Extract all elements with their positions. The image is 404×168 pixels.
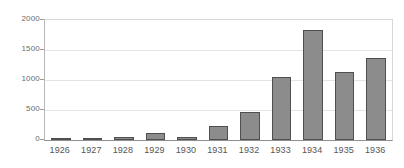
bar-1927 xyxy=(83,138,103,140)
bar-1936 xyxy=(366,58,386,141)
x-axis-tick-label-1926: 1926 xyxy=(44,145,76,156)
y-axis-tick-label-1000: 1000 xyxy=(6,75,40,83)
x-axis-tick-label-1936: 1936 xyxy=(359,145,391,156)
bar-1932 xyxy=(240,112,260,140)
y-axis-tick-label-2000: 2000 xyxy=(6,15,40,23)
gridline-1500 xyxy=(45,50,392,51)
bar-1928 xyxy=(114,137,134,140)
x-axis-tick-label-1935: 1935 xyxy=(328,145,360,156)
x-axis-tick-label-1927: 1927 xyxy=(76,145,108,156)
x-axis-tick-label-1929: 1929 xyxy=(139,145,171,156)
x-axis-tick-label-1933: 1933 xyxy=(265,145,297,156)
bar-1926 xyxy=(51,138,71,140)
bar-1930 xyxy=(177,137,197,140)
bar-1935 xyxy=(335,72,355,140)
y-axis-tick-label-0: 0 xyxy=(6,135,40,143)
x-axis-tick-label-1932: 1932 xyxy=(233,145,265,156)
y-axis-tick-label-1500: 1500 xyxy=(6,45,40,53)
bar-1929 xyxy=(146,133,166,141)
x-axis-tick-label-1930: 1930 xyxy=(170,145,202,156)
x-axis-tick-label-1928: 1928 xyxy=(107,145,139,156)
bar-1934 xyxy=(303,30,323,140)
bar-1931 xyxy=(209,126,229,140)
bar-chart: 2000 1500 1000 500 0 1926192719281929193… xyxy=(0,0,404,168)
x-axis-tick-label-1931: 1931 xyxy=(202,145,234,156)
y-axis-tick-label-500: 500 xyxy=(6,105,40,113)
bar-1933 xyxy=(272,77,292,140)
plot-area xyxy=(44,19,393,141)
x-axis-tick-label-1934: 1934 xyxy=(296,145,328,156)
